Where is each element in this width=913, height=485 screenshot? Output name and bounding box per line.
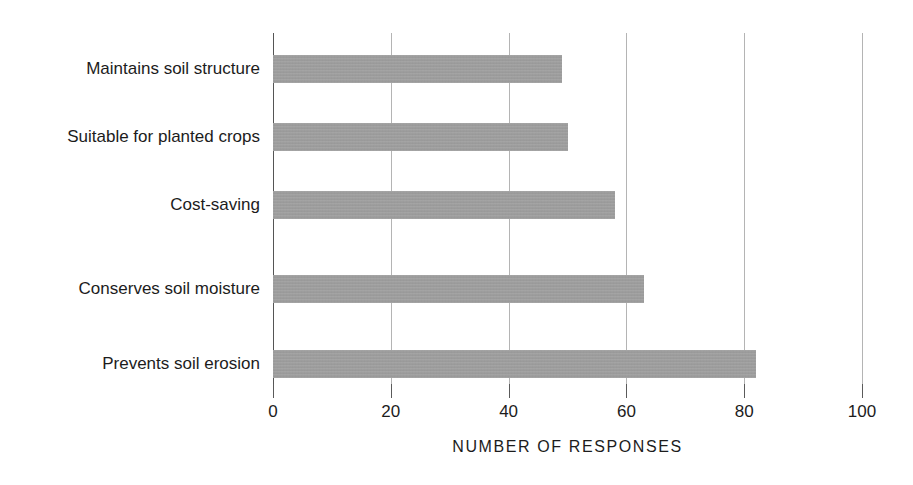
bar: [273, 55, 562, 83]
tick-mark: [862, 384, 863, 398]
category-label: Conserves soil moisture: [0, 275, 268, 303]
bar: [273, 123, 568, 151]
tick-label: 80: [735, 402, 754, 422]
tick-mark: [626, 384, 627, 398]
tick-mark: [744, 384, 745, 398]
x-axis-title: NUMBER OF RESPONSES: [273, 438, 862, 456]
category-label: Maintains soil structure: [0, 55, 268, 83]
tick-label: 60: [617, 402, 636, 422]
category-label: Cost-saving: [0, 191, 268, 219]
plot-area: [273, 33, 862, 398]
bar-row: [273, 123, 862, 151]
category-label: Suitable for planted crops: [0, 123, 268, 151]
category-label: Prevents soil erosion: [0, 350, 268, 378]
tick-label: 20: [381, 402, 400, 422]
bar-chart-figure: Maintains soil structureSuitable for pla…: [0, 0, 913, 485]
tick-label: 100: [848, 402, 876, 422]
tick-mark: [273, 384, 274, 398]
bar-row: [273, 350, 862, 378]
category-axis-labels: Maintains soil structureSuitable for pla…: [0, 33, 268, 398]
tick-label: 40: [499, 402, 518, 422]
tick-mark: [509, 384, 510, 398]
bar: [273, 350, 756, 378]
tick-label: 0: [268, 402, 277, 422]
bar-row: [273, 191, 862, 219]
x-axis-ticks: 020406080100: [273, 398, 862, 438]
bar-row: [273, 275, 862, 303]
bar-row: [273, 55, 862, 83]
bar: [273, 191, 615, 219]
bar: [273, 275, 644, 303]
tick-mark: [391, 384, 392, 398]
gridline: [862, 33, 863, 398]
